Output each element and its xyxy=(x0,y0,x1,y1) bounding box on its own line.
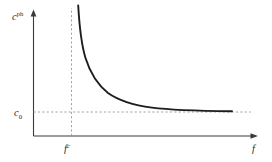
fc-label-superscript: c xyxy=(67,142,70,149)
c0-asymptote-label: c0 xyxy=(14,107,23,120)
y-axis-label: cph xyxy=(12,10,24,22)
y-axis-arrowhead xyxy=(31,10,37,17)
phase-velocity-curve xyxy=(78,6,232,112)
x-axis-label: f xyxy=(252,143,257,154)
y-axis-label-superscript: ph xyxy=(17,10,24,17)
x-axis-label-base: f xyxy=(252,143,257,154)
fc-critical-label: fc xyxy=(64,142,70,154)
figure-container: cph f c0 fc xyxy=(0,0,272,162)
c0-label-subscript: 0 xyxy=(19,113,23,120)
dispersion-plot: cph f c0 fc xyxy=(0,0,272,162)
x-axis-arrowhead xyxy=(251,133,259,139)
